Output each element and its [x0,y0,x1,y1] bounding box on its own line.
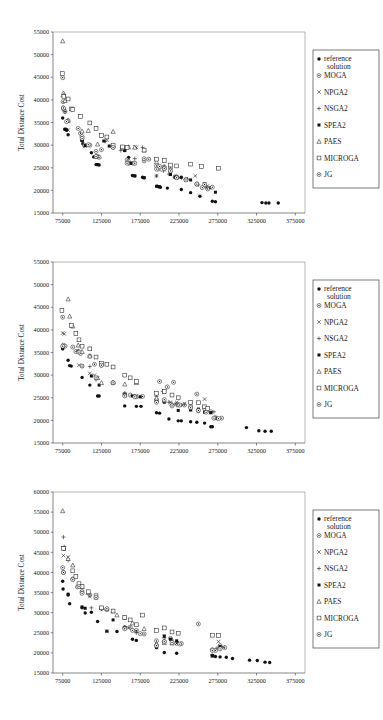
y-tick-label: 15000 [34,439,49,446]
x-tick-label: 375000 [286,447,305,454]
legend-label: MICROGA [324,614,360,623]
legend-label: JG [324,170,333,179]
y-axis: 1500020000250003000035000400004500050000… [34,488,53,676]
series-microga [60,72,220,170]
y-tick-label: 50000 [34,528,49,535]
x-tick-label: 325000 [247,217,266,224]
x-tick-label: 225000 [170,447,189,454]
y-tick-label: 25000 [34,394,49,401]
y-axis: 1500020000250003000035000400004500050000… [34,258,53,446]
x-tick-label: 175000 [131,447,150,454]
x-tick-label: 375000 [286,677,305,684]
x-tick-label: 175000 [131,677,150,684]
legend-item-microga: MICROGA [317,614,359,623]
y-tick-label: 25000 [34,629,49,636]
legend: referencesolutionMOGANPGA2NSGA2SPEA2PAES… [313,510,379,648]
y-tick-label: 35000 [34,349,49,356]
legend-label-cont: solution [327,62,351,71]
y-tick-label: 40000 [34,569,49,576]
y-tick-label: 45000 [34,73,49,80]
x-tick-label: 175000 [131,217,150,224]
y-tick-label: 45000 [34,549,49,556]
x-tick-label: 75000 [55,677,70,684]
y-tick-label: 20000 [34,187,49,194]
legend: referencesolutionMOGANPGA2NSGA2SPEA2PAES… [313,280,379,418]
series-reference-solution [61,580,271,665]
series-nsga2 [61,345,219,420]
legend-label: PAES [324,137,341,146]
series-reference-solution [61,347,273,433]
y-axis: 1500020000250003000035000400004500050000… [34,28,53,216]
legend-label-cont: solution [327,292,351,301]
series-spea2 [62,546,222,657]
series-jg [61,106,214,189]
chart-panel-1: 1500020000250003000035000400004500050000… [0,0,383,230]
legend-label-cont: solution [327,522,351,531]
y-axis-title: Total Distance Cost [18,554,26,611]
legend-label: MICROGA [324,384,360,393]
y-tick-label: 15000 [34,669,49,676]
legend-label: NSGA2 [324,334,348,343]
legend-label: NSGA2 [324,104,348,113]
x-tick-label: 275000 [208,217,227,224]
chart-panel-3: 1500020000250003000035000400004500050000… [0,460,383,690]
y-tick-label: 40000 [34,326,49,333]
x-tick-label: 375000 [286,217,305,224]
x-axis: 7500012500017500022500027500032500037500… [55,443,305,454]
series-paes [61,39,179,179]
y-tick-label: 55000 [34,508,49,515]
y-tick-label: 30000 [34,371,49,378]
x-tick-label: 125000 [92,447,111,454]
x-tick-label: 225000 [170,677,189,684]
figure-page: 1500020000250003000035000400004500050000… [0,0,383,720]
x-tick-label: 325000 [247,677,266,684]
y-tick-label: 45000 [34,303,49,310]
y-tick-label: 35000 [34,119,49,126]
legend-label: NPGA2 [324,548,348,557]
x-tick-label: 75000 [55,217,70,224]
legend-label: PAES [324,597,341,606]
x-tick-label: 75000 [55,447,70,454]
x-tick-label: 125000 [92,217,111,224]
series-reference-solution [61,116,280,204]
x-axis: 7500012500017500022500027500032500037500… [55,213,305,224]
legend-label: SPEA2 [324,581,346,590]
legend-label: PAES [324,367,341,376]
legend: referencesolutionMOGANPGA2NSGA2SPEA2PAES… [313,50,379,188]
series-jg [61,344,221,420]
y-axis-title: Total Distance Cost [18,324,26,381]
x-tick-label: 275000 [208,677,227,684]
legend-item-microga: MICROGA [317,154,359,163]
legend-label: JG [324,630,333,639]
series-nsga2 [61,535,219,657]
x-tick-label: 225000 [170,217,189,224]
x-tick-label: 325000 [247,447,266,454]
series-npga2 [62,554,225,658]
y-tick-label: 55000 [34,28,49,35]
y-tick-label: 25000 [34,164,49,171]
y-tick-label: 55000 [34,258,49,265]
x-axis: 7500012500017500022500027500032500037500… [55,673,305,684]
series-spea2 [64,128,217,194]
legend-label: NPGA2 [324,88,348,97]
y-tick-label: 30000 [34,141,49,148]
y-tick-label: 35000 [34,589,49,596]
legend-label: MICROGA [324,154,360,163]
legend-label: NSGA2 [324,564,348,573]
y-tick-label: 30000 [34,609,49,616]
legend-label: SPEA2 [324,121,346,130]
y-tick-label: 20000 [34,417,49,424]
legend-item-microga: MICROGA [317,384,359,393]
y-tick-label: 20000 [34,649,49,656]
legend-label: MOGA [324,71,347,80]
y-axis-title: Total Distance Cost [18,94,26,151]
legend-label: NPGA2 [324,318,348,327]
y-tick-label: 15000 [34,209,49,216]
legend-label: SPEA2 [324,351,346,360]
y-tick-label: 40000 [34,96,49,103]
y-tick-label: 50000 [34,281,49,288]
legend-label: JG [324,400,333,409]
plot-frame [53,262,305,443]
legend-label: MOGA [324,301,347,310]
y-tick-label: 50000 [34,51,49,58]
